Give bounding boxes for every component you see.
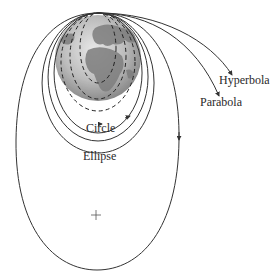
earth-globe [55, 13, 141, 111]
parabola-label: Parabola [200, 96, 242, 108]
orbit-diagram: Hyperbola Parabola Circle Ellipse [0, 0, 273, 278]
hyperbola-label: Hyperbola [219, 74, 270, 86]
focus-marker [91, 210, 101, 220]
ellipse-label: Ellipse [83, 150, 116, 162]
circle-label: Circle [86, 122, 115, 134]
orbit-diagram-graphic [0, 0, 273, 278]
